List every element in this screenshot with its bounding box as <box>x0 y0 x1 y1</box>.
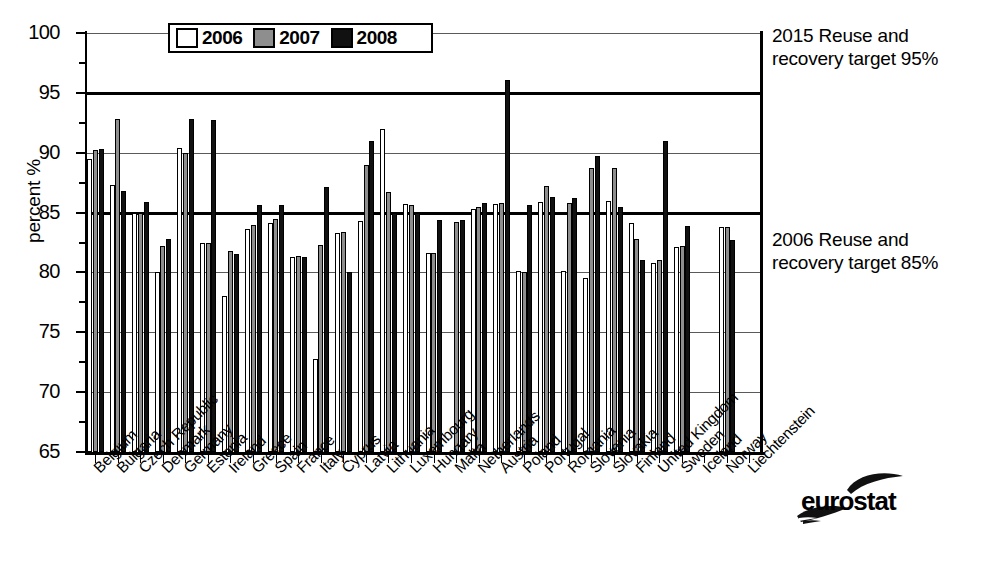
y-tick-label-70: 70 <box>16 381 60 401</box>
bar <box>313 359 318 452</box>
bar <box>318 245 323 452</box>
x-tick-mark <box>637 455 638 463</box>
bar <box>369 141 374 452</box>
target-annotation-95: 2015 Reuse and recovery target 95% <box>772 24 994 70</box>
bar <box>589 168 594 452</box>
x-tick-mark <box>501 455 502 463</box>
bar-group <box>719 33 742 452</box>
legend-label-2007: 2007 <box>279 27 319 49</box>
x-tick-mark <box>95 455 96 463</box>
legend-item-2008: 2008 <box>331 27 397 49</box>
bar <box>572 198 577 452</box>
x-tick-mark <box>343 455 344 463</box>
bar-group <box>403 33 426 452</box>
bar-group <box>516 33 539 452</box>
x-tick-mark <box>456 455 457 463</box>
y-tick-mark-65 <box>76 451 86 453</box>
bar <box>725 227 730 452</box>
bar <box>493 204 498 452</box>
chart-figure: percent % 65707580859095100 2006 2007 20… <box>0 0 999 586</box>
x-axis-line <box>85 452 765 455</box>
x-tick-mark <box>185 455 186 463</box>
x-tick-mark <box>388 455 389 463</box>
bar <box>228 251 233 452</box>
bar-group <box>651 33 674 452</box>
y-tick-mark-75 <box>76 331 86 333</box>
bar <box>296 256 301 452</box>
y-minor-tick <box>79 122 86 124</box>
bar <box>651 263 656 452</box>
bar <box>403 204 408 452</box>
bar <box>121 191 126 452</box>
y-minor-tick <box>79 62 86 64</box>
bar <box>561 271 566 452</box>
bar <box>567 203 572 452</box>
bar <box>273 219 278 452</box>
x-tick-mark <box>163 455 164 463</box>
bar <box>499 203 504 452</box>
bar <box>730 240 735 452</box>
bar <box>211 120 216 452</box>
x-tick-mark <box>546 455 547 463</box>
bar-group <box>313 33 336 452</box>
bar <box>538 202 543 452</box>
bar-group <box>493 33 516 452</box>
bar <box>132 213 137 452</box>
bar-group <box>448 33 471 452</box>
x-tick-mark <box>479 455 480 463</box>
bar <box>674 247 679 452</box>
bar <box>251 225 256 452</box>
legend-swatch-2006 <box>176 28 198 48</box>
legend: 2006 2007 2008 <box>168 23 433 53</box>
bar-group <box>561 33 584 452</box>
bar <box>358 221 363 452</box>
bar <box>476 207 481 452</box>
y-tick-label-100: 100 <box>16 22 60 42</box>
bar-group <box>110 33 133 452</box>
target-annotation-85: 2006 Reuse and recovery target 85% <box>772 228 994 274</box>
y-tick-mark-70 <box>76 391 86 393</box>
x-tick-mark <box>298 455 299 463</box>
y-tick-mark-95 <box>76 92 86 94</box>
bar <box>234 254 239 452</box>
y-minor-tick <box>79 242 86 244</box>
bar <box>257 205 262 452</box>
y-tick-label-90: 90 <box>16 142 60 162</box>
x-tick-mark <box>208 455 209 463</box>
x-tick-mark <box>524 455 525 463</box>
bar <box>222 296 227 452</box>
bar <box>634 239 639 452</box>
y-axis-ticks: 65707580859095100 <box>14 0 60 586</box>
bar <box>335 233 340 452</box>
bar-group <box>583 33 606 452</box>
y-tick-label-65: 65 <box>16 441 60 461</box>
bar <box>177 148 182 452</box>
eurostat-wordmark: eurostat <box>801 486 896 517</box>
bar-group <box>380 33 403 452</box>
y-minor-tick <box>79 182 86 184</box>
bar-group <box>606 33 629 452</box>
legend-item-2006: 2006 <box>176 27 242 49</box>
bar <box>522 272 527 452</box>
bar-group <box>245 33 268 452</box>
bar-group <box>155 33 178 452</box>
x-tick-mark <box>253 455 254 463</box>
bar <box>166 239 171 452</box>
legend-label-2006: 2006 <box>202 27 242 49</box>
bar <box>629 223 634 452</box>
bar <box>471 209 476 452</box>
bar <box>612 168 617 452</box>
legend-item-2007: 2007 <box>253 27 319 49</box>
plot-right-border <box>760 31 763 454</box>
bar <box>595 156 600 452</box>
y-tick-label-85: 85 <box>16 202 60 222</box>
bar <box>516 271 521 452</box>
bar <box>454 222 459 452</box>
bar <box>302 257 307 452</box>
x-tick-mark <box>434 455 435 463</box>
y-tick-mark-100 <box>76 32 86 34</box>
bar <box>245 229 250 452</box>
bar <box>482 203 487 452</box>
bar <box>279 205 284 452</box>
y-minor-tick <box>79 301 86 303</box>
